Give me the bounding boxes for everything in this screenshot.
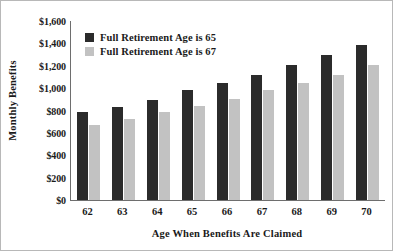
y-axis-tick: $1,400: [39, 38, 66, 49]
bar: [251, 75, 262, 200]
legend-swatch-icon: [85, 33, 94, 42]
y-axis-tick: $800: [46, 105, 66, 116]
y-axis-tick: $600: [46, 127, 66, 138]
bar-group: [319, 21, 346, 200]
y-axis-title: Monthly Benefits: [1, 1, 23, 200]
bar: [356, 45, 367, 201]
x-axis-tick: 65: [187, 206, 198, 217]
bar-group: [249, 21, 276, 200]
y-axis-tick: $400: [46, 150, 66, 161]
bar: [333, 75, 344, 200]
y-axis-tick: $200: [46, 172, 66, 183]
legend-item: Full Retirement Age is 65: [85, 32, 216, 43]
bar: [368, 65, 379, 200]
x-axis-tick: 67: [257, 206, 268, 217]
bar: [263, 90, 274, 200]
legend-swatch-icon: [85, 47, 94, 56]
bar: [182, 90, 193, 200]
bar-group: [354, 21, 381, 200]
bar-group: [215, 21, 242, 200]
y-axis-tick: $0: [56, 195, 66, 206]
y-axis-tick: $1,600: [39, 16, 66, 27]
y-axis-tick-labels: $0$200$400$600$800$1,000$1,200$1,400$1,6…: [21, 1, 69, 206]
y-axis-tick: $1,000: [39, 83, 66, 94]
x-axis-tick: 63: [117, 206, 128, 217]
x-axis-tick: 70: [361, 206, 372, 217]
bar: [124, 119, 135, 200]
bar: [321, 55, 332, 200]
bar: [298, 83, 309, 200]
bar: [112, 107, 123, 200]
bar: [159, 112, 170, 200]
bar: [229, 99, 240, 200]
x-axis-tick: 66: [222, 206, 233, 217]
bar-chart: Monthly Benefits $0$200$400$600$800$1,00…: [0, 0, 393, 251]
chart-legend: Full Retirement Age is 65Full Retirement…: [85, 32, 216, 57]
x-axis-tick: 69: [326, 206, 337, 217]
y-axis-title-label: Monthly Benefits: [7, 60, 18, 141]
bar: [194, 106, 205, 200]
x-axis-tick-labels: 626364656667686970: [70, 206, 384, 222]
bar-group: [284, 21, 311, 200]
legend-label: Full Retirement Age is 67: [100, 46, 216, 57]
x-axis-tick: 62: [82, 206, 93, 217]
x-axis-title: Age When Benefits Are Claimed: [70, 228, 384, 239]
bar: [217, 83, 228, 200]
bar: [147, 100, 158, 200]
legend-item: Full Retirement Age is 67: [85, 46, 216, 57]
bar: [89, 125, 100, 200]
x-axis-tick: 64: [152, 206, 163, 217]
bar: [77, 112, 88, 200]
bar: [286, 65, 297, 200]
y-axis-tick: $1,200: [39, 60, 66, 71]
x-axis-tick: 68: [292, 206, 303, 217]
legend-label: Full Retirement Age is 65: [100, 32, 216, 43]
